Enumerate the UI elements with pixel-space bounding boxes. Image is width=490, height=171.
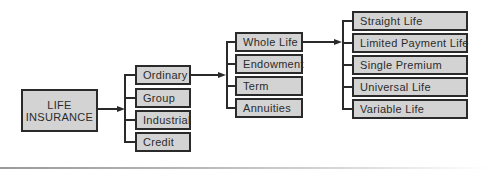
ordinary-arrow-head-icon bbox=[218, 72, 226, 78]
whole-life-label: Whole Life bbox=[243, 36, 298, 48]
root-label-line2: INSURANCE bbox=[26, 111, 94, 123]
whole-life-box: Whole Life bbox=[235, 32, 303, 52]
group-box: Group bbox=[135, 88, 191, 108]
root-connector-line bbox=[98, 108, 118, 110]
universal-life-box: Universal Life bbox=[352, 77, 468, 97]
straight-life-box: Straight Life bbox=[352, 11, 468, 31]
industrial-box: Industrial bbox=[135, 110, 191, 130]
single-premium-label: Single Premium bbox=[360, 59, 442, 71]
group-label: Group bbox=[143, 92, 175, 104]
life-insurance-box: LIFE INSURANCE bbox=[21, 89, 98, 132]
ordinary-label: Ordinary bbox=[143, 69, 188, 81]
credit-box: Credit bbox=[135, 132, 191, 152]
level3-bracket-vertical bbox=[226, 41, 228, 109]
ordinary-box: Ordinary bbox=[135, 65, 191, 85]
root-label-line1: LIFE bbox=[26, 99, 94, 111]
term-label: Term bbox=[243, 80, 269, 92]
annuities-label: Annuities bbox=[243, 102, 291, 114]
annuities-box: Annuities bbox=[235, 98, 303, 118]
life-insurance-label: LIFE INSURANCE bbox=[26, 99, 94, 123]
endowment-box: Endowment bbox=[235, 54, 303, 74]
single-premium-box: Single Premium bbox=[352, 55, 468, 75]
credit-label: Credit bbox=[143, 136, 174, 148]
term-box: Term bbox=[235, 76, 303, 96]
variable-life-label: Variable Life bbox=[360, 103, 424, 115]
industrial-label: Industrial bbox=[143, 114, 191, 126]
whole-life-arrow-head-icon bbox=[334, 39, 342, 45]
bottom-divider bbox=[0, 167, 490, 169]
variable-life-box: Variable Life bbox=[352, 99, 468, 119]
ordinary-connector-line bbox=[191, 74, 219, 76]
limited-payment-life-label: Limited Payment Life bbox=[360, 37, 469, 49]
limited-payment-life-box: Limited Payment Life bbox=[352, 33, 468, 53]
endowment-label: Endowment bbox=[243, 58, 304, 70]
level2-bracket-vertical bbox=[124, 74, 126, 143]
straight-life-label: Straight Life bbox=[360, 15, 423, 27]
whole-life-connector-line bbox=[303, 41, 336, 43]
universal-life-label: Universal Life bbox=[360, 81, 431, 93]
